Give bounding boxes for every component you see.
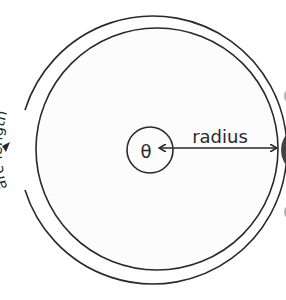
main-circle <box>36 28 278 270</box>
theta-label: θ <box>140 141 151 162</box>
circle-diagram: θ radius arc-length <box>0 0 286 300</box>
radius-label: radius <box>192 126 248 147</box>
right-edge-shadows <box>281 89 286 219</box>
